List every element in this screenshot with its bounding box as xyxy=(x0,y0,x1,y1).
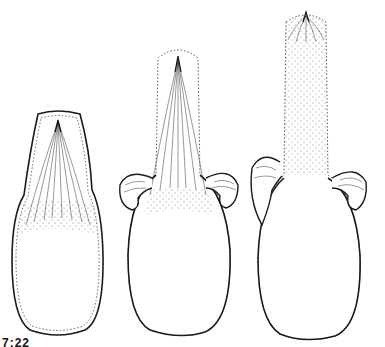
illustration-canvas xyxy=(0,0,385,347)
form-1 xyxy=(12,111,103,335)
form-2 xyxy=(120,50,238,336)
form-3-right-appendage xyxy=(332,172,366,210)
form-3-body-outline xyxy=(258,178,360,340)
form-2-striations xyxy=(150,60,206,195)
form-2-stipple-band xyxy=(144,188,213,216)
form-3 xyxy=(251,12,366,340)
form-3-left-appendage xyxy=(251,157,282,225)
form-1-stipple-band xyxy=(18,200,97,235)
figure-label: 7:22 xyxy=(2,337,30,347)
